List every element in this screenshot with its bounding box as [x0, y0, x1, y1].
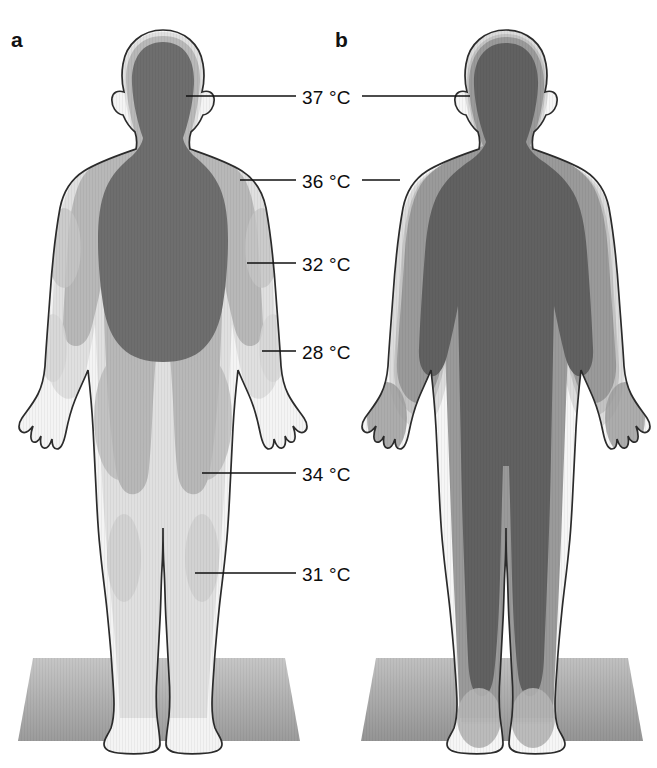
- label-34: 34 °C: [302, 465, 351, 484]
- label-31: 31 °C: [302, 565, 351, 584]
- thermal-body-figure: a b 37 °C36 °C32 °C28 °C34 °C31 °C: [0, 0, 657, 768]
- panel-a-figure: [18, 30, 307, 754]
- label-37: 37 °C: [302, 88, 351, 107]
- label-28: 28 °C: [302, 343, 351, 362]
- panel-letter-a: a: [11, 29, 23, 50]
- label-32: 32 °C: [302, 255, 351, 274]
- panel-letter-b: b: [335, 29, 348, 50]
- panel-b-figure: [361, 30, 650, 754]
- thermal-figure-svg: [0, 0, 657, 768]
- label-36: 36 °C: [302, 172, 351, 191]
